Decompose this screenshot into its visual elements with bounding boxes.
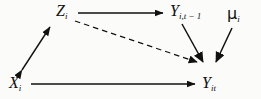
causal-path-diagram: Zi Yi,t − 1 μi Xi Yit xyxy=(0,0,261,99)
node-y-it-base: Y xyxy=(202,74,211,91)
node-z-base: Z xyxy=(56,2,65,19)
node-mu-subscript: i xyxy=(237,14,240,24)
node-y-it: Yit xyxy=(202,75,216,93)
node-y-lagged-subscript: i,t − 1 xyxy=(179,11,201,21)
edge-x-z-correlation xyxy=(22,27,50,70)
edge-y-lagged-to-y-it xyxy=(182,24,203,62)
edge-z-to-y-it-dashed xyxy=(75,21,197,62)
node-z-subscript: i xyxy=(65,11,68,21)
node-mu-base: μ xyxy=(227,4,237,23)
node-z: Zi xyxy=(56,3,67,21)
node-y-lagged-base: Y xyxy=(170,2,179,19)
node-y-lagged: Yi,t − 1 xyxy=(170,3,201,21)
node-x-base: X xyxy=(9,74,19,91)
edge-mu-to-y-it xyxy=(216,28,232,62)
node-y-it-subscript: it xyxy=(211,83,216,93)
node-x: Xi xyxy=(9,75,21,93)
diagram-canvas xyxy=(0,0,261,99)
node-x-subscript: i xyxy=(19,83,22,93)
node-mu: μi xyxy=(227,6,240,24)
